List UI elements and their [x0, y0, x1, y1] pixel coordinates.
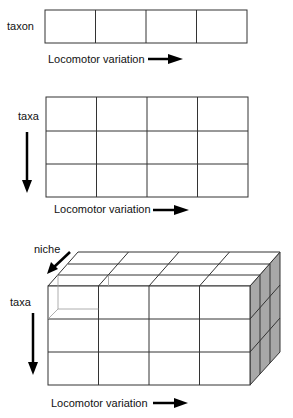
panel-2-row-label: taxa: [18, 111, 39, 122]
panel-3-arrow-right-icon: [153, 398, 188, 408]
panel-2-grid: [46, 97, 248, 197]
panel-1-grid: [45, 10, 247, 43]
panel-2-x-label: Locomotor variation: [54, 204, 151, 215]
panel-2-arrow-down-icon: [22, 132, 32, 193]
panel-3-depth-label: niche: [34, 244, 60, 255]
panel-3-cube: [48, 252, 280, 385]
panel-1-arrow-right-icon: [148, 54, 183, 64]
panel-3-arrow-down-icon: [28, 313, 38, 375]
panel-1-row-label: taxon: [7, 21, 34, 32]
panel-2-arrow-right-icon: [153, 205, 189, 215]
panel-1-x-label: Locomotor variation: [48, 54, 145, 65]
panel-3-x-label: Locomotor variation: [51, 398, 148, 409]
panel-3-row-label: taxa: [10, 297, 31, 308]
